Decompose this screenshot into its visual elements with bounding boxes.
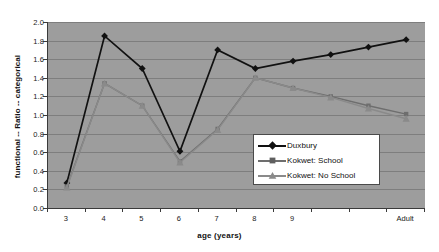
- y-axis-tick-label: 1.8: [22, 37, 44, 46]
- x-axis-tick-mark: [198, 208, 199, 212]
- legend-swatch-diamond-icon: [258, 140, 286, 151]
- legend-item-kokwet-no-school: Kokwet: No School: [254, 168, 379, 183]
- data-point: [214, 47, 221, 54]
- data-point: [252, 65, 259, 72]
- y-axis-tick-mark: [43, 59, 47, 60]
- y-axis-tick-label: 2.0: [22, 18, 44, 27]
- x-axis-tick-mark: [47, 208, 48, 212]
- x-axis-tick-mark: [424, 208, 425, 212]
- y-axis-tick-label: 0.8: [22, 130, 44, 139]
- x-axis-tick-mark: [236, 208, 237, 212]
- legend-swatch-triangle-icon: [258, 170, 286, 181]
- x-axis-tick-label: 4: [84, 214, 124, 223]
- chart-figure: 0.00.20.40.60.81.01.21.41.61.82.0 functi…: [0, 0, 439, 252]
- legend-item-kokwet-school: Kokwet: School: [254, 153, 379, 168]
- y-axis-tick-label: 0.2: [22, 185, 44, 194]
- data-point: [290, 58, 297, 65]
- legend-label: Duxbury: [286, 141, 317, 150]
- x-axis-tick-mark: [122, 208, 123, 212]
- y-axis-tick-mark: [43, 78, 47, 79]
- y-axis-tick-mark: [43, 171, 47, 172]
- y-axis-tick-mark: [43, 115, 47, 116]
- y-axis-tick-mark: [43, 189, 47, 190]
- legend-swatch-square-icon: [258, 155, 286, 166]
- data-point: [63, 184, 70, 191]
- legend-label: Kokwet: School: [286, 156, 343, 165]
- x-axis-tick-label: 9: [272, 214, 312, 223]
- data-point: [327, 51, 334, 58]
- x-axis-tick-label: Adult: [385, 214, 425, 223]
- x-axis-tick-label: 7: [197, 214, 237, 223]
- x-axis-tick-mark: [160, 208, 161, 212]
- y-axis-title: functional -- Ratio -- categorical: [13, 24, 22, 210]
- y-axis-tick-mark: [43, 208, 47, 209]
- legend-label: Kokwet: No School: [286, 171, 355, 180]
- x-axis-tick-label: 8: [234, 214, 274, 223]
- y-axis-tick-label: 0.6: [22, 148, 44, 157]
- x-axis-tick-label: 3: [46, 214, 86, 223]
- x-axis-tick-label: 6: [159, 214, 199, 223]
- data-point: [403, 36, 410, 43]
- x-axis-tick-mark: [311, 208, 312, 212]
- y-axis-tick-mark: [43, 134, 47, 135]
- y-axis-tick-label: 0.0: [22, 204, 44, 213]
- x-axis-title: age (years): [0, 231, 439, 240]
- y-axis-tick-label: 1.2: [22, 92, 44, 101]
- data-point: [139, 102, 146, 109]
- y-axis-tick-mark: [43, 41, 47, 42]
- x-axis-tick-mark: [386, 208, 387, 212]
- y-axis-tick-mark: [43, 152, 47, 153]
- legend-item-duxbury: Duxbury: [254, 138, 379, 153]
- x-axis-tick-mark: [349, 208, 350, 212]
- y-axis-tick-label: 1.6: [22, 55, 44, 64]
- data-point: [252, 74, 259, 81]
- data-point: [101, 80, 108, 87]
- y-axis-tick-label: 0.4: [22, 167, 44, 176]
- x-axis-tick-mark: [273, 208, 274, 212]
- y-axis-tick-mark: [43, 96, 47, 97]
- y-axis-tick-labels: 0.00.20.40.60.81.01.21.41.61.82.0: [18, 0, 44, 252]
- x-axis-tick-label: 5: [121, 214, 161, 223]
- data-point: [365, 44, 372, 51]
- y-axis-tick-label: 1.0: [22, 111, 44, 120]
- data-point: [177, 148, 184, 155]
- x-axis-tick-mark: [85, 208, 86, 212]
- y-axis-tick-mark: [43, 22, 47, 23]
- chart-legend: Duxbury Kokwet: School Kokwet: No School: [253, 134, 380, 185]
- y-axis-tick-label: 1.4: [22, 74, 44, 83]
